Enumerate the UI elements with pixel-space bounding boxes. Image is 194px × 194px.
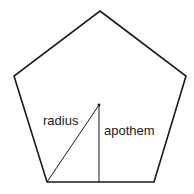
radius-label: radius: [43, 113, 79, 128]
center-point: [98, 104, 101, 107]
pentagon-outline: [14, 11, 186, 182]
apothem-label: apothem: [104, 123, 155, 138]
diagram-canvas: radius apothem: [0, 0, 194, 194]
pentagon-diagram: radius apothem: [0, 0, 194, 194]
